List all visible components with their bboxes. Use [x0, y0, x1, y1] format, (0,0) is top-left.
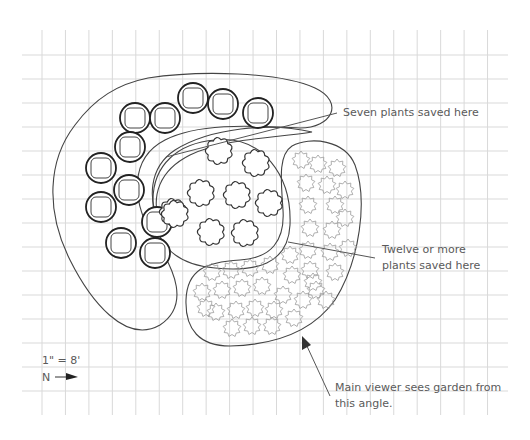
star-plant-icon [299, 241, 317, 259]
star-plant-icon [222, 261, 240, 279]
star-plant-icon [243, 317, 261, 335]
star-plant-icon [304, 273, 322, 291]
ring-plant-icon [120, 103, 150, 133]
ring-plant-icon [86, 192, 116, 222]
star-plant-icon [292, 151, 310, 169]
ring-plant-icon [106, 228, 136, 258]
star-plant-icon [301, 219, 319, 237]
star-plant-icon [233, 279, 251, 297]
north-arrow-icon [55, 373, 78, 380]
star-plant-icon [246, 299, 264, 317]
label-seven-plants: Seven plants saved here [343, 106, 479, 119]
bush-plant-icon [197, 219, 224, 246]
ring-plant-icon [115, 132, 145, 162]
label-viewer-line2: this angle. [335, 397, 393, 410]
ring-plant-icon [86, 153, 116, 183]
star-plant-icon [263, 317, 281, 335]
bush-plant-icon [223, 182, 250, 209]
label-twelve-line1: Twelve or more [381, 243, 466, 256]
star-plant-icon [283, 266, 301, 284]
star-plant-icon [317, 291, 335, 309]
star-plant-icon [213, 281, 231, 299]
star-plant-icon [323, 221, 341, 239]
star-plant-icon [326, 263, 344, 281]
star-plant-icon [309, 155, 327, 173]
ring-plant-icon [178, 83, 208, 113]
grid [22, 30, 508, 415]
garden-plan-diagram: Seven plants saved here Twelve or more p… [0, 0, 530, 440]
star-plant-icon [328, 159, 346, 177]
bush-plant-icon [161, 201, 188, 228]
star-plant-icon [207, 303, 225, 321]
ring-plant-icon [140, 238, 170, 268]
star-plant-icon [253, 277, 271, 295]
star-plant-icon [294, 291, 312, 309]
ring-plant-icon [150, 103, 180, 133]
north-label: N [42, 371, 50, 384]
ring-plant-icon [243, 98, 273, 128]
star-plant-icon [193, 283, 211, 301]
label-twelve-line2: plants saved here [382, 259, 481, 272]
scale-label: 1" = 8' [42, 354, 80, 367]
diagram-canvas: Seven plants saved here Twelve or more p… [0, 0, 530, 440]
star-plant-icon [336, 181, 354, 199]
bush-plant-icon [242, 150, 269, 177]
ring-plant-icon [208, 89, 238, 119]
bush-plant-icon [187, 180, 214, 207]
label-viewer-line1: Main viewer sees garden from [335, 381, 501, 394]
leader-viewer [306, 344, 330, 396]
bush-plant-icon [255, 190, 282, 217]
star-plant-icon [223, 319, 241, 337]
ring-plant-icon [114, 175, 144, 205]
star-plant-icon [318, 176, 336, 194]
bush-plant-icon [231, 220, 258, 247]
